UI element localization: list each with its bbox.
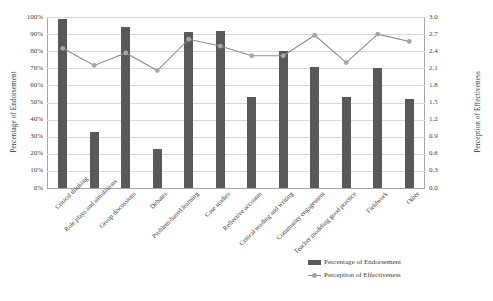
line-marker: [218, 44, 223, 49]
bar-swatch-icon: [308, 260, 321, 265]
chart-legend: Percentage of Endorsement Perception of …: [308, 256, 401, 282]
y-axis-left-tick-label: 90%: [30, 31, 43, 38]
y-axis-left-tick-label: 70%: [30, 65, 43, 72]
x-axis-tick-label: Critical thinking: [53, 190, 73, 210]
y-axis-right-tick-label: 1.5: [429, 99, 438, 106]
y-axis-right-tick-label: 3.0: [429, 14, 438, 21]
y-axis-left-tick-label: 80%: [30, 48, 43, 55]
y-axis-right-tick-label: 2.4: [429, 48, 438, 55]
legend-label-effectiveness: Perception of Effectiveness: [324, 272, 401, 279]
line-marker: [281, 53, 286, 58]
y-axis-left-tick-label: 30%: [30, 133, 43, 140]
legend-item-effectiveness: Perception of Effectiveness: [308, 269, 401, 282]
y-axis-right-tick-label: 2.1: [429, 65, 438, 72]
y-axis-left-tick-label: 60%: [30, 82, 43, 89]
y-axis-right-title: Perception of Effectiveness: [474, 52, 482, 172]
y-axis-right-tick-label: 1.2: [429, 116, 438, 123]
y-axis-right-tick-label: 2.7: [429, 31, 438, 38]
line-marker: [344, 60, 349, 65]
y-axis-left-tick-label: 0%: [34, 185, 43, 192]
line-marker: [407, 39, 412, 44]
y-axis-left-tick-label: 40%: [30, 116, 43, 123]
line-marker: [249, 53, 254, 58]
line-marker: [123, 51, 128, 56]
line-marker: [155, 68, 160, 73]
line-marker: [186, 37, 191, 42]
line-marker: [60, 46, 65, 51]
legend-label-endorsement: Percentage of Endorsement: [324, 259, 401, 266]
line-marker-swatch-icon: [308, 272, 321, 279]
x-axis-tick-label: Group discussions: [72, 190, 137, 255]
y-axis-left-tick-label: 20%: [30, 150, 43, 157]
y-axis-right-tick-label: 0.9: [429, 133, 438, 140]
line-marker: [92, 63, 97, 68]
chart-container: Percentage of Endorsement Perception of …: [0, 0, 493, 301]
line-series-effectiveness: [47, 17, 425, 189]
y-axis-right-tick-label: 0.0: [429, 185, 438, 192]
y-axis-right-tick-label: 0.6: [429, 150, 438, 157]
plot-area: 0%10%20%30%40%50%60%70%80%90%100% 0.00.3…: [47, 17, 425, 189]
line-marker: [375, 32, 380, 37]
line-marker: [312, 33, 317, 38]
legend-item-endorsement: Percentage of Endorsement: [308, 256, 401, 269]
y-axis-left-title: Percentage of Endorsement: [10, 52, 18, 172]
y-axis-right-tick-label: 1.8: [429, 82, 438, 89]
y-axis-left-tick-label: 50%: [30, 99, 43, 106]
y-axis-left-tick-label: 100%: [27, 14, 43, 21]
line-path: [63, 34, 410, 70]
y-axis-left-tick-label: 10%: [30, 167, 43, 174]
y-axis-right-tick-label: 0.3: [429, 167, 438, 174]
